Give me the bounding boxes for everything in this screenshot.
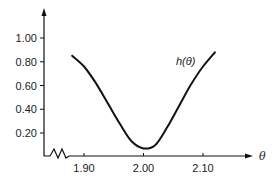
x-axis-label: θ — [259, 150, 266, 163]
y-tick-label: 0.40 — [16, 103, 37, 115]
y-axis-arrow-icon — [42, 8, 47, 16]
y-tick-label: 0.60 — [16, 80, 37, 92]
x-tick-label: 1.90 — [73, 162, 94, 174]
y-ticks: 0.200.400.600.801.00 — [16, 32, 44, 139]
x-tick-label: 2.10 — [192, 162, 213, 174]
y-tick-label: 0.80 — [16, 56, 37, 68]
x-axis — [69, 154, 253, 159]
y-tick-label: 0.20 — [16, 127, 37, 139]
x-axis-arrow-icon — [245, 154, 253, 159]
y-tick-label: 1.00 — [16, 32, 37, 44]
chart: 0.200.400.600.801.00 1.902.002.10 h(θ) θ — [0, 0, 278, 182]
axis-break-zigzag — [44, 149, 69, 158]
y-axis — [42, 8, 47, 156]
curve-label: h(θ) — [176, 55, 196, 67]
x-tick-label: 2.00 — [133, 162, 154, 174]
